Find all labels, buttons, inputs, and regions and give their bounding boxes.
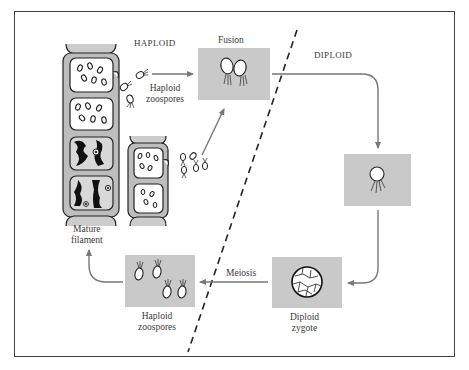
zygote-art — [292, 267, 322, 297]
diagram-artwork — [0, 0, 469, 370]
fusion-gametes — [219, 57, 248, 86]
haploid-zoospores-top-line1: Haploid — [146, 83, 184, 94]
haploid-zoospores-bottom-line1: Haploid — [138, 311, 176, 322]
small-filament-art — [128, 136, 168, 226]
diploid-zygote-line2: zygote — [290, 323, 319, 334]
fusion-label: Fusion — [218, 35, 244, 46]
life-cycle-diagram: HAPLOID DIPLOID Fusion Haploid zoospores… — [0, 0, 469, 370]
mature-filament-art — [63, 44, 119, 226]
diploid-region-label: DIPLOID — [314, 50, 352, 61]
haploid-zoospores-top-label: Haploid zoospores — [146, 83, 184, 105]
haploid-zoospores-bottom-label: Haploid zoospores — [138, 311, 176, 333]
haploid-diploid-divider — [188, 30, 297, 352]
haploid-zoospores-top-line2: zoospores — [146, 94, 184, 105]
haploid-zoospores-bottom-line2: zoospores — [138, 322, 176, 333]
diploid-zygote-line1: Diploid — [290, 312, 319, 323]
mature-filament-line1: Mature — [71, 224, 103, 235]
haploid-region-label: HAPLOID — [134, 38, 176, 49]
diploid-zygote-label: Diploid zygote — [290, 312, 319, 334]
mature-filament-label: Mature filament — [71, 224, 103, 246]
diploid-zoospore-art — [370, 167, 385, 193]
bottom-zoospores-art — [134, 259, 187, 299]
meiosis-label: Meiosis — [226, 268, 256, 279]
mature-filament-line2: filament — [71, 235, 103, 246]
